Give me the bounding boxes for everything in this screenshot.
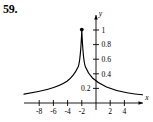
x-tick-label: -2 (79, 107, 86, 116)
x-axis-arrow-icon (139, 101, 144, 105)
y-tick-label: 1 (102, 26, 106, 35)
x-tick-label: 4 (123, 107, 127, 116)
x-tick-label: -6 (50, 107, 57, 116)
x-axis-label: x (144, 93, 149, 102)
y-tick-label: 0.8 (102, 40, 112, 49)
x-tick-label: -8 (36, 107, 43, 116)
y-tick-label: 0.6 (102, 55, 112, 64)
figure-container: 59. -8 -6 -4 -2 2 4 0.2 0.4 (0, 0, 153, 122)
x-tick-label: -4 (64, 107, 71, 116)
y-tick-label: 0.2 (81, 84, 91, 93)
y-axis-label: y (98, 9, 103, 18)
y-tick-label: 0.4 (102, 70, 112, 79)
y-axis-arrow-icon (94, 15, 98, 20)
vertex-point-marker (80, 28, 84, 32)
plot-area: -8 -6 -4 -2 2 4 0.2 0.4 0.6 0.8 1 x y (0, 0, 153, 122)
x-tick-label: 2 (108, 107, 112, 116)
